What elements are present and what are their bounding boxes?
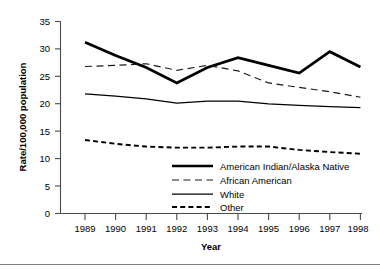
legend-label-american-indian-alaska-native: American Indian/Alaska Native	[220, 161, 349, 172]
x-tick-label-1993: 1993	[197, 223, 218, 234]
figure-container: 35 30 25 20 15 10 5 0 1989 1990 1991	[0, 0, 380, 270]
series-line-white	[85, 94, 360, 108]
series-line-african-american	[85, 64, 360, 97]
x-tick-label-1996: 1996	[289, 223, 310, 234]
x-ticks: 1989 1990 1991 1992 1993 1994 1995 1996 …	[74, 214, 368, 235]
y-tick-label-25: 25	[39, 71, 50, 82]
x-axis-title: Year	[201, 241, 221, 252]
x-tick-label-1991: 1991	[136, 223, 157, 234]
y-ticks: 35 30 25 20 15 10 5 0	[39, 16, 60, 219]
series-line-other	[85, 140, 360, 154]
legend-label-african-american: African American	[220, 175, 292, 186]
series-group	[85, 42, 360, 153]
x-tick-label-1995: 1995	[258, 223, 279, 234]
line-chart: 35 30 25 20 15 10 5 0 1989 1990 1991	[0, 0, 380, 270]
x-tick-label-1997: 1997	[319, 223, 340, 234]
legend: American Indian/Alaska Native African Am…	[172, 161, 349, 213]
x-tick-label-1994: 1994	[227, 223, 248, 234]
y-tick-label-5: 5	[45, 181, 50, 192]
x-tick-label-1989: 1989	[74, 223, 95, 234]
x-tick-label-1998: 1998	[347, 223, 368, 234]
legend-label-white: White	[220, 189, 244, 200]
y-tick-label-15: 15	[39, 126, 50, 137]
y-tick-label-35: 35	[39, 16, 50, 27]
y-tick-label-30: 30	[39, 43, 50, 54]
y-axis-title: Rate/100,000 population	[17, 62, 28, 171]
y-tick-label-10: 10	[39, 153, 50, 164]
y-tick-label-20: 20	[39, 98, 50, 109]
legend-label-other: Other	[220, 202, 244, 213]
series-line-american-indian-alaska-native	[85, 42, 360, 83]
x-tick-label-1992: 1992	[166, 223, 187, 234]
y-tick-label-0: 0	[45, 208, 50, 219]
x-tick-label-1990: 1990	[105, 223, 126, 234]
